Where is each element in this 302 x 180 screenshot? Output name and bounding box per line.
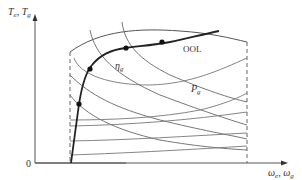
efficiency-contour — [70, 112, 247, 126]
origin-label: 0 — [26, 158, 31, 169]
x-axis-arrow-icon — [281, 161, 288, 166]
power-contour — [122, 22, 247, 102]
power-label: Pg — [190, 83, 201, 96]
operating-point — [87, 66, 92, 71]
max-torque-envelope — [70, 30, 247, 52]
efficiency-contour — [70, 146, 247, 155]
ool-diagram: Te, Tg ωe, ωg 0 OOL ηg Pg — [0, 0, 302, 180]
x-axis-label: ωe, ωg — [268, 167, 294, 180]
power-contour — [70, 95, 247, 150]
operating-point — [76, 101, 81, 106]
operating-point — [159, 39, 164, 44]
operating-point — [123, 45, 128, 50]
y-axis-label: Te, Tg — [8, 6, 31, 19]
efficiency-label: ηg — [115, 60, 124, 73]
power-contour — [90, 30, 247, 125]
efficiency-contour — [70, 93, 247, 120]
y-axis-arrow-icon — [33, 14, 38, 21]
efficiency-contour — [74, 58, 247, 85]
ool-label: OOL — [183, 44, 202, 54]
